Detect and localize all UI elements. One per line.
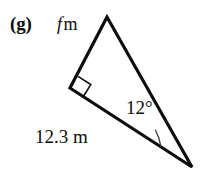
unknown-side-label: fm [57,15,78,33]
triangle-outline [70,17,192,167]
triangle-figure: (g) fm 12° 12.3 m [0,0,209,184]
base-side-label: 12.3 m [35,127,88,146]
unknown-side-unit: m [64,14,78,34]
part-label: (g) [10,14,32,33]
angle-label: 12° [126,98,153,117]
